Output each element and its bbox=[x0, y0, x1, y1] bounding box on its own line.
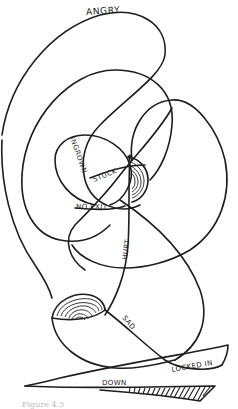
label-ingrown: INGROWN bbox=[68, 136, 89, 175]
label-sad: SAD bbox=[120, 314, 136, 331]
right-descending-path bbox=[120, 200, 204, 360]
label-down: DOWN bbox=[102, 379, 127, 387]
emotion-scribble-figure: ANGRY INGROWN STUCK NO EXIT HURT SAD LOC… bbox=[0, 0, 238, 409]
down-wedge-icon bbox=[25, 386, 215, 401]
label-hurt: HURT bbox=[121, 238, 132, 260]
left-sweep-path bbox=[2, 140, 52, 298]
middle-arc-path bbox=[22, 70, 172, 180]
cross-arc-path bbox=[68, 108, 172, 270]
label-no-exit: NO EXIT bbox=[76, 203, 108, 211]
right-upper-loop-path bbox=[72, 100, 227, 268]
label-locked-in: LOCKED IN bbox=[171, 359, 213, 374]
lower-loop-path bbox=[52, 318, 175, 368]
label-angry: ANGRY bbox=[86, 5, 121, 17]
lower-spiral-icon bbox=[52, 294, 105, 320]
figure-caption: Figure 4.3 bbox=[22, 400, 64, 409]
